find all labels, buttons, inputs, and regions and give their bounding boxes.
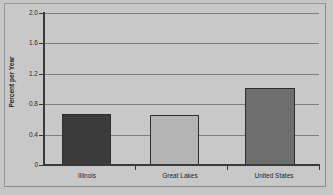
y-tick-label-2-0: 2.0	[4, 9, 38, 16]
y-tick-mark-1-6	[39, 43, 44, 44]
x-axis-line	[43, 164, 320, 166]
x-label-illinois: Illinois	[52, 172, 122, 180]
bar-chart-figure: 2.0 1.6 1.2 0.8 0.4 0 Illinois Great Lak…	[0, 0, 333, 195]
x-label-great-lakes: Great Lakes	[140, 172, 220, 180]
y-axis-line	[43, 12, 45, 166]
y-tick-mark-1-2	[39, 74, 44, 75]
y-tick-label-0-4: 0.4	[4, 131, 38, 138]
y-tick-mark-2-0	[39, 13, 44, 14]
x-tick-mark-1	[135, 166, 136, 170]
y-axis-title: Percent per Year	[8, 42, 16, 122]
y-tick-mark-0	[39, 165, 44, 166]
y-tick-mark-0-4	[39, 135, 44, 136]
x-tick-mark-2	[227, 166, 228, 170]
x-label-united-states: United States	[231, 172, 317, 180]
y-tick-label-0: 0	[4, 161, 38, 168]
bars-layer	[44, 13, 319, 165]
y-tick-mark-0-8	[39, 104, 44, 105]
bar-great-lakes	[150, 115, 199, 165]
y-axis-tick-labels: 2.0 1.6 1.2 0.8 0.4 0	[0, 0, 38, 195]
bar-united-states	[245, 88, 295, 165]
x-tick-mark-3	[319, 166, 320, 170]
bar-illinois	[62, 114, 111, 165]
